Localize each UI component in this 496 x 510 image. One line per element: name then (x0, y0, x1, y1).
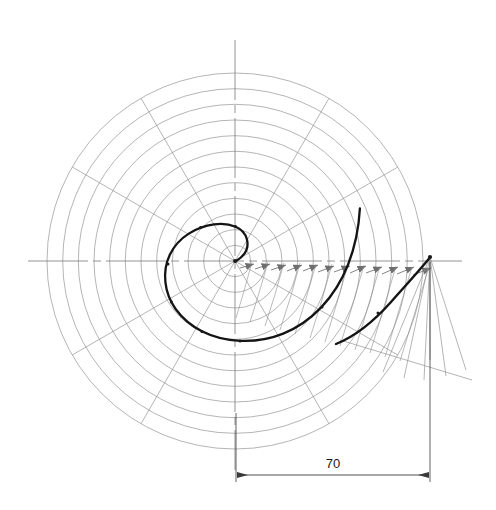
spiral-node (233, 259, 237, 263)
drawing-sheet: 70 (0, 0, 496, 510)
dimension-70-label: 70 (326, 456, 340, 471)
spiral-node (167, 263, 170, 266)
spiral-node (234, 225, 237, 228)
spiral-node (428, 255, 432, 259)
spiral-node (199, 226, 202, 229)
spiral-node (201, 330, 204, 333)
spiral-node (170, 301, 173, 304)
spiral-drawing-canvas: 70 (0, 0, 496, 510)
spiral-node (377, 312, 380, 315)
spiral-node (321, 306, 324, 309)
sheet-background (0, 0, 496, 510)
spiral-node (239, 340, 242, 343)
